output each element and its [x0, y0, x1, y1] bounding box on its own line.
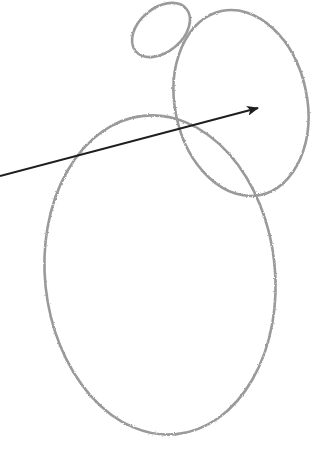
body-ellipse-upper — [157, 0, 325, 209]
body-ellipse-lower — [29, 104, 291, 446]
sketch-canvas — [0, 0, 327, 457]
